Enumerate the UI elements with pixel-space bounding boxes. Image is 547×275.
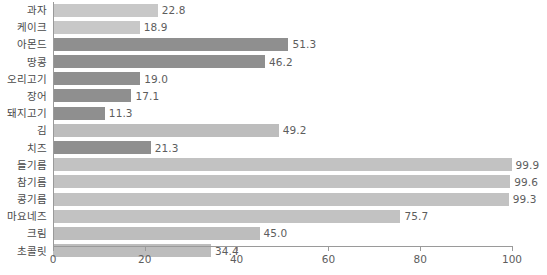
bar-row: 49.2 (53, 122, 512, 139)
bar-row: 99.6 (53, 174, 512, 191)
bar (53, 210, 400, 223)
bar-row: 99.9 (53, 157, 512, 174)
bar (53, 227, 260, 240)
bar (53, 4, 158, 17)
bar-row: 22.8 (53, 2, 512, 19)
category-label: 아몬드 (0, 36, 51, 53)
x-axis-tick (512, 247, 513, 251)
bar (53, 193, 509, 206)
category-label: 김 (0, 122, 51, 139)
category-label: 케이크 (0, 19, 51, 36)
category-label: 돼지고기 (0, 105, 51, 122)
category-axis-labels: 과자케이크아몬드땅콩오리고기장어돼지고기김치즈들기름참기름콩기름마요네즈크림초콜… (0, 2, 51, 243)
bar-value-label: 46.2 (269, 54, 293, 71)
x-axis-line (53, 246, 513, 247)
category-label: 오리고기 (0, 71, 51, 88)
bar-value-label: 18.9 (144, 19, 168, 36)
bar-value-label: 19.0 (144, 71, 168, 88)
x-axis-tick-label: 80 (414, 253, 427, 265)
y-axis-line (53, 2, 54, 247)
category-label: 콩기름 (0, 191, 51, 208)
bar-row: 11.3 (53, 105, 512, 122)
bar (53, 158, 512, 171)
bar (53, 72, 140, 85)
bar-value-label: 11.3 (109, 105, 133, 122)
bar-row: 19.0 (53, 71, 512, 88)
category-label: 마요네즈 (0, 208, 51, 225)
bar-row: 45.0 (53, 225, 512, 242)
bar-row: 17.1 (53, 88, 512, 105)
bar (53, 141, 151, 154)
x-axis-tick-label: 0 (50, 253, 57, 265)
bar-value-label: 49.2 (283, 122, 307, 139)
bar (53, 175, 510, 188)
category-label: 초콜릿 (0, 243, 51, 260)
bar-rows: 22.818.951.346.219.017.111.349.221.399.9… (53, 2, 512, 243)
bar (53, 107, 105, 120)
bar-value-label: 99.6 (514, 174, 538, 191)
bar (53, 124, 279, 137)
bar (53, 38, 288, 51)
category-label: 크림 (0, 225, 51, 242)
bar-value-label: 99.3 (513, 191, 537, 208)
bar-value-label: 51.3 (292, 36, 316, 53)
x-axis-tick-label: 60 (322, 253, 335, 265)
x-axis-tick (420, 247, 421, 251)
bar-value-label: 17.1 (135, 88, 159, 105)
bar-value-label: 45.0 (264, 225, 288, 242)
category-label: 땅콩 (0, 54, 51, 71)
x-axis-tick (145, 247, 146, 251)
bar (53, 89, 131, 102)
category-label: 과자 (0, 2, 51, 19)
bar-chart: 과자케이크아몬드땅콩오리고기장어돼지고기김치즈들기름참기름콩기름마요네즈크림초콜… (0, 0, 547, 275)
bar-value-label: 22.8 (162, 2, 186, 19)
bar-row: 46.2 (53, 54, 512, 71)
x-axis-tick (53, 247, 54, 251)
bar-value-label: 21.3 (155, 140, 179, 157)
bar-value-label: 75.7 (404, 208, 428, 225)
bar (53, 55, 265, 68)
category-label: 들기름 (0, 157, 51, 174)
bar-value-label: 99.9 (516, 157, 540, 174)
bar-row: 75.7 (53, 208, 512, 225)
x-axis-tick (328, 247, 329, 251)
plot-area: 22.818.951.346.219.017.111.349.221.399.9… (53, 2, 512, 247)
x-axis-tick (237, 247, 238, 251)
bar-row: 21.3 (53, 140, 512, 157)
bar (53, 21, 140, 34)
bar-row: 18.9 (53, 19, 512, 36)
bar-row: 51.3 (53, 36, 512, 53)
x-axis-tick-label: 40 (230, 253, 243, 265)
category-label: 치즈 (0, 140, 51, 157)
category-label: 장어 (0, 88, 51, 105)
x-axis-tick-label: 20 (138, 253, 151, 265)
bar-row: 99.3 (53, 191, 512, 208)
category-label: 참기름 (0, 174, 51, 191)
x-axis-tick-label: 100 (502, 253, 522, 265)
